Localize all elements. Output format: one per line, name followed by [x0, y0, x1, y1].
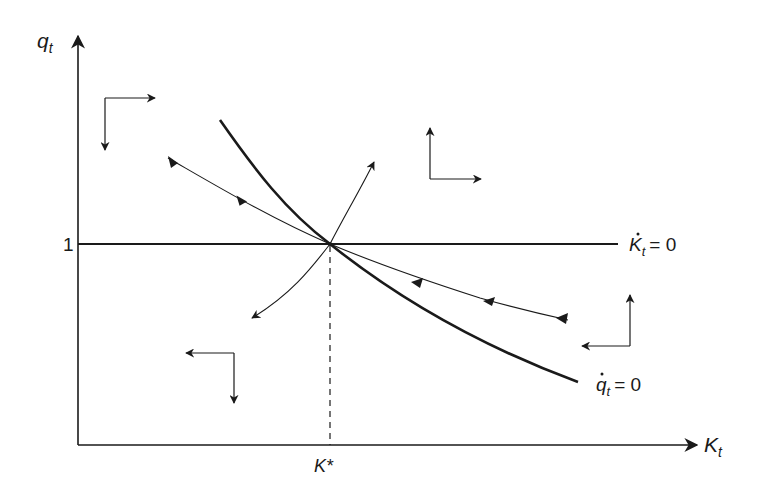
arrowhead-icon	[236, 195, 248, 206]
arrowhead-icon	[556, 313, 568, 324]
steady-state-point	[328, 242, 332, 246]
x-axis-label: Kt	[704, 433, 723, 460]
q-dot-label-dot	[601, 373, 604, 376]
direction-arrows-lower-left	[186, 353, 234, 403]
y-axis-label: qt	[37, 29, 54, 56]
arrowhead-icon	[483, 297, 495, 306]
arrowhead-icon	[168, 156, 178, 168]
stable-arm-upper	[168, 156, 330, 244]
direction-arrows-upper-left	[105, 98, 155, 150]
y-tick-one: 1	[63, 234, 74, 255]
k-dot-zero-label: Kt= 0	[629, 234, 676, 259]
direction-arrows-upper-right	[430, 128, 481, 179]
stable-arm-lower	[330, 244, 568, 324]
arrowhead-icon	[411, 278, 423, 288]
direction-arrows-lower-right	[582, 295, 630, 346]
q-dot-zero-label: qt= 0	[596, 374, 641, 399]
q-dot-zero-locus	[220, 120, 578, 382]
phase-diagram: qt Kt 1 K* Kt= 0 qt= 0	[0, 0, 760, 502]
x-tick-kstar: K*	[314, 456, 334, 476]
k-dot-label-dot	[637, 233, 640, 236]
